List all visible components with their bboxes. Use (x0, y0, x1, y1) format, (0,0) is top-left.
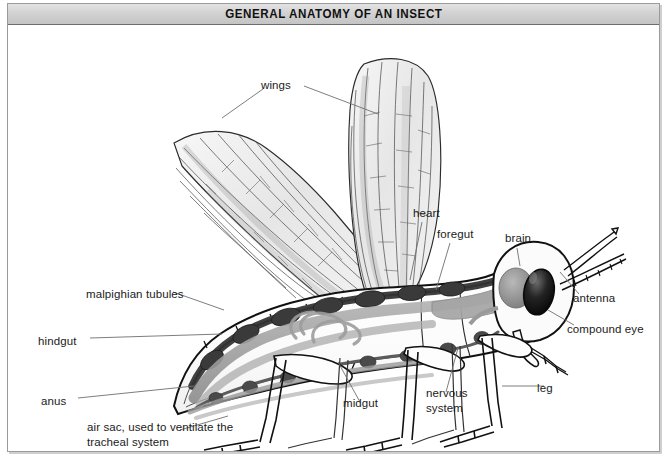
label-midgut: midgut (343, 396, 378, 411)
label-malpighian-tubules: malpighian tubules (86, 287, 184, 302)
figure-page: GENERAL ANATOMY OF AN INSECT (0, 0, 672, 468)
label-wings: wings (261, 78, 291, 93)
label-compound-eye: compound eye (567, 322, 644, 337)
title-bar: GENERAL ANATOMY OF AN INSECT (8, 4, 659, 25)
label-hindgut: hindgut (38, 334, 76, 349)
insect-anatomy-illustration (8, 26, 659, 451)
wing-fore (349, 59, 441, 304)
frame-shadow-bottom (9, 452, 662, 454)
label-brain: brain (505, 231, 531, 246)
frame-shadow-right (660, 5, 662, 454)
label-leg: leg (537, 381, 553, 396)
diagram-canvas (8, 26, 659, 451)
label-air-sac: air sac, used to ventilate the tracheal … (87, 420, 247, 449)
label-foregut: foregut (437, 227, 474, 242)
label-heart: heart (413, 206, 440, 221)
label-anus: anus (41, 394, 66, 409)
label-antenna: antenna (573, 291, 615, 306)
label-nervous-system: nervous system (426, 386, 488, 415)
page-title: GENERAL ANATOMY OF AN INSECT (225, 7, 442, 21)
